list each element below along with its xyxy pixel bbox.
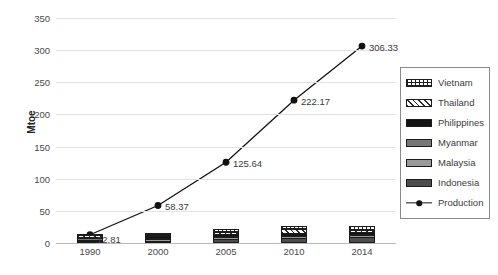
- legend-item-malaysia[interactable]: Malaysia: [406, 153, 485, 173]
- bar-segment-indonesia[interactable]: [145, 241, 171, 243]
- bar-segment-indonesia[interactable]: [213, 239, 239, 244]
- production-data-label: 222.17: [301, 96, 330, 107]
- production-data-point[interactable]: [155, 202, 162, 209]
- bar-stack[interactable]: [213, 229, 239, 243]
- legend-item-indonesia[interactable]: Indonesia: [406, 173, 485, 193]
- x-axis-tick-label: 2005: [215, 246, 236, 257]
- gridline: 100: [56, 179, 396, 180]
- production-line-series: [56, 18, 396, 243]
- gridline: 150: [56, 147, 396, 148]
- legend-label-production: Production: [438, 198, 483, 208]
- production-data-label: 58.37: [165, 201, 189, 212]
- production-data-label: 125.64: [233, 158, 262, 169]
- production-data-point[interactable]: [359, 43, 366, 50]
- legend-item-thailand[interactable]: Thailand: [406, 93, 485, 113]
- bar-stack[interactable]: [281, 226, 307, 243]
- y-axis-tick-label: 300: [34, 45, 50, 56]
- legend-item-vietnam[interactable]: Vietnam: [406, 73, 485, 93]
- bar-segment-indonesia[interactable]: [281, 238, 307, 243]
- chart-container: Mtoe 05010015020025030035019902000200520…: [0, 0, 498, 275]
- gridline: 200: [56, 114, 396, 115]
- bar-segment-indonesia[interactable]: [349, 237, 375, 243]
- x-axis-tick-label: 2010: [283, 246, 304, 257]
- plot-area: 0501001502002503003501990200020052010201…: [56, 18, 396, 243]
- x-axis-tick-label: 2014: [351, 246, 372, 257]
- legend-label-vietnam: Vietnam: [438, 78, 473, 88]
- bar-stack[interactable]: [145, 233, 171, 243]
- gridline: 300: [56, 50, 396, 51]
- legend-swatch-indonesia: [406, 179, 432, 187]
- legend-label-malaysia: Malaysia: [438, 158, 476, 168]
- legend-item-philippines[interactable]: Philippines: [406, 113, 485, 133]
- production-data-point[interactable]: [291, 97, 298, 104]
- y-axis-tick-label: 0: [45, 238, 50, 249]
- gridline: 250: [56, 82, 396, 83]
- bar-stack[interactable]: [349, 226, 375, 243]
- legend-swatch-vietnam: [406, 79, 432, 87]
- y-axis-tick-label: 100: [34, 173, 50, 184]
- x-axis-tick-label: 2000: [147, 246, 168, 257]
- legend-swatch-malaysia: [406, 159, 432, 167]
- y-axis-tick-label: 350: [34, 13, 50, 24]
- legend-swatch-myanmar: [406, 139, 432, 147]
- production-data-point[interactable]: [223, 159, 230, 166]
- x-axis-tick-label: 1990: [79, 246, 100, 257]
- legend-label-philippines: Philippines: [438, 118, 484, 128]
- legend-label-indonesia: Indonesia: [438, 178, 479, 188]
- legend-swatch-production: [406, 199, 432, 208]
- production-data-label: 12.81: [97, 233, 121, 244]
- chart-legend: Vietnam Thailand Philippines Myanmar Mal…: [400, 67, 490, 219]
- gridline: 350: [56, 18, 396, 19]
- legend-item-production[interactable]: Production: [406, 193, 485, 213]
- legend-item-myanmar[interactable]: Myanmar: [406, 133, 485, 153]
- legend-swatch-thailand: [406, 99, 432, 107]
- y-axis-tick-label: 200: [34, 109, 50, 120]
- y-axis-tick-label: 250: [34, 77, 50, 88]
- gridline: 50: [56, 211, 396, 212]
- y-axis-tick-label: 150: [34, 141, 50, 152]
- legend-label-thailand: Thailand: [438, 98, 474, 108]
- production-line-path: [90, 46, 362, 235]
- legend-label-myanmar: Myanmar: [438, 138, 478, 148]
- legend-swatch-philippines: [406, 119, 432, 127]
- production-data-label: 306.33: [369, 42, 398, 53]
- y-axis-tick-label: 50: [39, 205, 50, 216]
